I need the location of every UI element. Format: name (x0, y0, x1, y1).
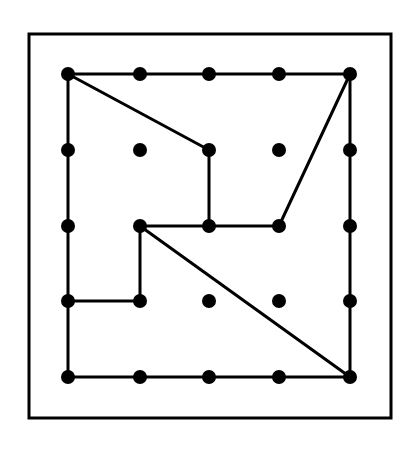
peg-1-0 (133, 67, 147, 81)
geoboard (0, 0, 411, 459)
peg-1-3 (133, 294, 147, 308)
peg-4-3 (343, 294, 357, 308)
peg-0-4 (61, 370, 75, 384)
peg-1-2 (133, 219, 147, 233)
peg-4-4 (343, 370, 357, 384)
peg-3-2 (272, 219, 286, 233)
peg-3-0 (272, 67, 286, 81)
peg-1-4 (133, 370, 147, 384)
peg-4-0 (343, 67, 357, 81)
segment-4 (68, 74, 209, 150)
peg-grid (61, 67, 357, 384)
peg-4-2 (343, 219, 357, 233)
peg-3-1 (272, 143, 286, 157)
peg-0-0 (61, 67, 75, 81)
segment-7 (279, 74, 350, 226)
peg-3-3 (272, 294, 286, 308)
peg-4-1 (343, 143, 357, 157)
peg-2-1 (202, 143, 216, 157)
peg-2-0 (202, 67, 216, 81)
peg-1-1 (133, 143, 147, 157)
peg-2-4 (202, 370, 216, 384)
peg-0-3 (61, 294, 75, 308)
peg-2-3 (202, 294, 216, 308)
peg-0-2 (61, 219, 75, 233)
peg-3-4 (272, 370, 286, 384)
peg-2-2 (202, 219, 216, 233)
segment-8 (140, 226, 350, 377)
peg-0-1 (61, 143, 75, 157)
